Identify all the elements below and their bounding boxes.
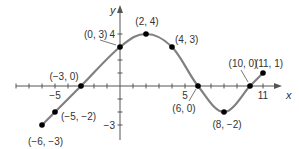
point-label: (4, 3) — [175, 34, 198, 45]
point-label: (10, 0) — [229, 58, 258, 69]
function-graph: −55114−3xy (−6, −3)(−5, −2)(−3, 0)(0, 3)… — [0, 0, 299, 149]
x-tick-label: 11 — [258, 90, 269, 101]
data-point — [247, 83, 253, 89]
x-axis-title: x — [285, 89, 292, 101]
point-label: (11, 1) — [255, 58, 283, 69]
data-point — [195, 83, 201, 89]
data-point — [52, 109, 58, 115]
data-point — [117, 44, 123, 50]
point-label: (0, 3) — [84, 29, 107, 40]
label-leader-line — [189, 89, 196, 101]
point-label: (8, −2) — [212, 119, 241, 130]
y-axis-arrow-icon — [117, 5, 123, 13]
y-tick-label: 4 — [109, 29, 115, 40]
point-label: (−5, −2) — [61, 111, 96, 122]
point-label: (−6, −3) — [28, 136, 63, 147]
data-point — [143, 31, 149, 37]
label-leader-line — [100, 40, 116, 45]
point-label: (6, 0) — [172, 103, 195, 114]
y-axis-title: y — [109, 4, 117, 16]
point-label: (2, 4) — [135, 16, 158, 27]
x-axis-arrow-icon — [274, 83, 282, 89]
label-leader-line — [241, 70, 248, 82]
x-tick-label: −5 — [49, 90, 61, 101]
data-point — [221, 109, 227, 115]
data-point — [260, 70, 266, 76]
x-tick-label: 5 — [182, 90, 188, 101]
data-point — [169, 44, 175, 50]
data-point — [78, 83, 84, 89]
y-tick-label: −3 — [104, 120, 116, 131]
point-label: (−3, 0) — [49, 71, 78, 82]
data-point — [39, 122, 45, 128]
